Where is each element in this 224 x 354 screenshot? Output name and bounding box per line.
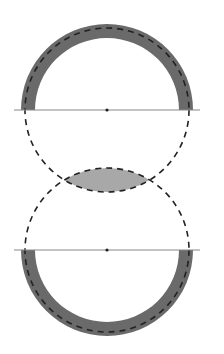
top-annular-band <box>21 24 193 110</box>
circles-diagram <box>0 0 224 354</box>
bottom-annular-band <box>21 250 193 336</box>
bottom-center-dot <box>105 248 108 251</box>
top-center-dot <box>105 108 108 111</box>
diagram-canvas <box>0 0 224 354</box>
intersection-lens <box>64 168 149 192</box>
